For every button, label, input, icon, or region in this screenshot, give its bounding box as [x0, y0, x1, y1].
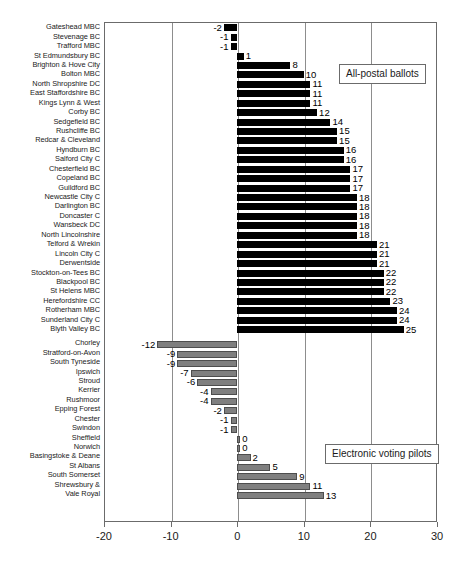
category-label: Ipswich	[0, 368, 100, 376]
category-label: Bolton MBC	[0, 70, 100, 78]
bar-value-label: -1	[104, 415, 229, 424]
category-label: Newcastle City C	[0, 193, 100, 201]
category-label: Chorley	[0, 339, 100, 347]
category-label: Corby BC	[0, 108, 100, 116]
bar	[231, 34, 238, 41]
bar	[237, 251, 377, 258]
category-label: Stratford-on-Avon	[0, 349, 100, 357]
bar	[191, 370, 238, 377]
bar	[237, 175, 350, 182]
category-label: Copeland BC	[0, 174, 100, 182]
x-axis-tick-label: 10	[284, 530, 324, 542]
bar	[237, 241, 377, 248]
bar	[237, 100, 310, 107]
bar	[237, 137, 337, 144]
bar	[237, 483, 310, 490]
category-label: Stockton-on-Tees BC	[0, 269, 100, 277]
bar-value-label: 12	[319, 108, 330, 117]
category-label: Chester	[0, 415, 100, 423]
category-label: Basingstoke & Deane	[0, 452, 100, 460]
x-axis-tick	[237, 522, 238, 527]
category-label: Kerrier	[0, 386, 100, 394]
bar-value-label: -4	[104, 387, 209, 396]
bar	[157, 341, 237, 348]
bar	[237, 492, 324, 499]
bar	[177, 360, 237, 367]
category-label: Vale Royal	[0, 490, 100, 498]
x-axis-tick	[104, 522, 105, 527]
x-axis-tick-label: 0	[217, 530, 257, 542]
category-label: Rushcliffe BC	[0, 127, 100, 135]
bar	[237, 62, 290, 69]
bar-value-label: 1	[246, 51, 251, 60]
category-label: Rotherham MBC	[0, 306, 100, 314]
bar-value-label: -6	[104, 377, 195, 386]
bar-value-label: 17	[352, 164, 363, 173]
category-label: Telford & Wrekin	[0, 240, 100, 248]
bar-value-label: 17	[352, 183, 363, 192]
bar-value-label: 13	[326, 491, 337, 500]
x-axis-tick-label: 30	[417, 530, 457, 542]
bar	[231, 417, 238, 424]
bar	[237, 81, 310, 88]
category-label: Stevenage BC	[0, 33, 100, 41]
bar-value-label: 16	[346, 145, 357, 154]
category-label: St Helens MBC	[0, 287, 100, 295]
x-axis-tick	[437, 522, 438, 527]
bar	[237, 203, 357, 210]
bar	[237, 473, 297, 480]
bar-value-label: 9	[299, 472, 304, 481]
category-label: North Lincolnshire	[0, 231, 100, 239]
category-label: East Staffordshire BC	[0, 89, 100, 97]
bar	[237, 288, 384, 295]
bar-value-label: 24	[399, 315, 410, 324]
category-label: Guildford BC	[0, 184, 100, 192]
category-label: St Albans	[0, 462, 100, 470]
category-label: Sunderland City C	[0, 316, 100, 324]
bar	[237, 53, 244, 60]
category-label: Derwentside	[0, 259, 100, 267]
bar-value-label: 25	[406, 325, 417, 334]
category-label: Herefordshire CC	[0, 297, 100, 305]
bar-value-label: -4	[104, 396, 209, 405]
category-label: Wansbeck DC	[0, 221, 100, 229]
bar-value-label: -2	[104, 23, 222, 32]
bar-value-label: 21	[379, 249, 390, 258]
category-label: Blyth Valley BC	[0, 325, 100, 333]
category-label: North Shropshire DC	[0, 80, 100, 88]
bar	[224, 24, 237, 31]
bar	[237, 185, 350, 192]
category-label: South Somerset	[0, 471, 100, 479]
bar	[237, 279, 384, 286]
bar	[237, 445, 240, 452]
category-label: Epping Forest	[0, 405, 100, 413]
x-axis-tick	[171, 522, 172, 527]
x-axis-tick	[304, 522, 305, 527]
category-label: Doncaster C	[0, 212, 100, 220]
category-label: Swindon	[0, 424, 100, 432]
bar	[231, 43, 238, 50]
bar-value-label: 18	[359, 230, 370, 239]
bar	[237, 194, 357, 201]
bar-value-label: 23	[392, 296, 403, 305]
bar	[211, 398, 238, 405]
bar	[237, 260, 377, 267]
bar-value-label: -12	[104, 340, 155, 349]
category-label: Shrewsbury &	[0, 481, 100, 489]
bar	[177, 351, 237, 358]
bar-value-label: 0	[242, 443, 247, 452]
bar	[211, 388, 238, 395]
bar	[237, 270, 384, 277]
bar	[237, 109, 317, 116]
category-label: St Edmundsbury BC	[0, 52, 100, 60]
bar-value-label: -1	[104, 425, 229, 434]
category-label: Stroud	[0, 377, 100, 385]
category-label: Hyndburn BC	[0, 146, 100, 154]
bar	[237, 119, 330, 126]
x-axis-tick-label: -20	[84, 530, 124, 542]
category-label: South Tyneside	[0, 358, 100, 366]
bar	[237, 222, 357, 229]
category-label: Lincoln City C	[0, 250, 100, 258]
category-label: Salford City C	[0, 155, 100, 163]
category-axis-labels: Gateshead MBCStevenage BCTrafford MBCSt …	[0, 22, 100, 522]
